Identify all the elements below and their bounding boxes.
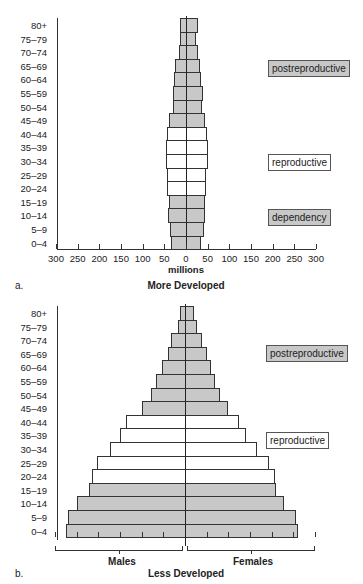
bar-males <box>168 347 186 362</box>
age-label: 50–54 <box>0 101 47 114</box>
age-label: 60–64 <box>0 73 47 86</box>
x-tick <box>251 244 252 249</box>
bar-males <box>168 208 187 223</box>
panel-more-developed: 80+75–7970–7465–6960–6455–5950–5445–4940… <box>0 0 363 296</box>
x-tick <box>120 532 121 537</box>
bar-males <box>142 401 186 416</box>
y-axis-line <box>57 306 58 540</box>
age-label: 50–54 <box>0 389 47 402</box>
bar-males <box>166 140 187 155</box>
age-label: 45–49 <box>0 114 47 127</box>
bar-males <box>156 374 186 389</box>
males-bracket-tick <box>119 550 120 554</box>
age-label: 70–74 <box>0 334 47 347</box>
bar-females <box>185 388 220 403</box>
x-tick <box>77 532 78 537</box>
age-label: 25–29 <box>0 457 47 470</box>
bar-males <box>173 100 187 115</box>
panel-less-developed: 80+75–7970–7465–6960–6455–5950–5445–4940… <box>0 296 363 584</box>
center-line <box>185 304 186 546</box>
legend-dependency: dependency <box>268 209 331 226</box>
bar-females <box>186 113 205 128</box>
legend-postreproductive: postreproductive <box>268 60 350 77</box>
bar-females <box>185 442 257 457</box>
bar-females <box>186 181 206 196</box>
bar-males <box>68 510 186 525</box>
legend-postreproductive: postreproductive <box>266 345 348 362</box>
bar-males <box>92 469 186 484</box>
bar-females <box>186 59 200 74</box>
bar-females <box>186 195 205 210</box>
bar-females <box>186 18 198 33</box>
age-label: 60–64 <box>0 361 47 374</box>
y-axis-line <box>57 18 58 250</box>
bar-females <box>185 415 239 430</box>
bar-females <box>186 168 206 183</box>
age-label: 20–24 <box>0 182 47 195</box>
bar-females <box>185 496 284 511</box>
bar-females <box>186 236 201 251</box>
legend-reproductive: reproductive <box>268 154 331 171</box>
x-tick <box>294 244 295 249</box>
bar-males <box>110 442 186 457</box>
x-tick <box>164 244 165 249</box>
bar-females <box>185 306 194 321</box>
females-bracket-tick <box>251 550 252 554</box>
x-tick <box>229 244 230 249</box>
x-tick <box>273 244 274 249</box>
bar-females <box>185 320 197 335</box>
x-tick <box>315 532 316 537</box>
bar-females <box>186 127 207 142</box>
bar-females <box>185 456 269 471</box>
x-tick <box>98 532 99 537</box>
bar-females <box>186 86 203 101</box>
bar-females <box>186 72 201 87</box>
bar-males <box>166 154 187 169</box>
age-label: 75–79 <box>0 33 47 46</box>
bar-females <box>186 154 208 169</box>
bar-females <box>185 360 211 375</box>
bar-females <box>186 140 208 155</box>
bar-females <box>185 333 202 348</box>
bar-females <box>186 32 196 47</box>
age-label: 0–4 <box>0 525 47 538</box>
bar-females <box>185 401 228 416</box>
bar-females <box>185 510 296 525</box>
age-label: 10–14 <box>0 497 47 510</box>
bar-males <box>170 222 187 237</box>
x-tick <box>186 244 187 249</box>
legend-reproductive: reproductive <box>266 432 329 449</box>
x-tick <box>121 244 122 249</box>
x-tick <box>99 244 100 249</box>
females-label: Females <box>223 556 283 567</box>
bar-males <box>167 181 187 196</box>
chart-title: Less Developed <box>86 568 286 579</box>
age-label: 45–49 <box>0 402 47 415</box>
x-tick <box>78 244 79 249</box>
bar-males <box>171 333 186 348</box>
bar-males <box>167 127 187 142</box>
bar-females <box>186 100 202 115</box>
bar-males <box>89 483 186 498</box>
bar-males <box>77 496 186 511</box>
age-label: 5–9 <box>0 223 47 236</box>
age-label: 20–24 <box>0 470 47 483</box>
center-line <box>186 16 187 249</box>
chart-title: More Developed <box>86 280 286 291</box>
bar-females <box>185 469 275 484</box>
x-tick <box>272 532 273 537</box>
x-tick <box>163 532 164 537</box>
age-label: 40–44 <box>0 416 47 429</box>
age-label: 15–19 <box>0 484 47 497</box>
bar-males <box>151 388 186 403</box>
age-label: 80+ <box>0 307 47 320</box>
x-tick <box>228 532 229 537</box>
bar-females <box>185 428 246 443</box>
x-tick <box>208 244 209 249</box>
bar-males <box>173 86 187 101</box>
x-tick <box>55 532 56 537</box>
bar-males <box>171 236 187 251</box>
bar-males <box>162 360 186 375</box>
age-label: 10–14 <box>0 209 47 222</box>
x-tick-label: 300 <box>301 253 331 264</box>
